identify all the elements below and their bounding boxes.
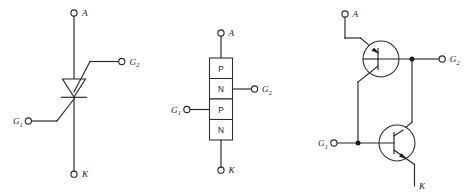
symbol-gate2-diagonal [74,62,90,93]
symbol-cathode-label: K [81,169,89,179]
symbol-anode-terminal[interactable] [71,10,77,16]
symbol-gate2-sublabel: 2 [136,61,140,68]
structure-anode-label: A [228,28,235,38]
equivalent-g1-sublabel: 1 [325,143,328,150]
equivalent-anode-label: A [352,9,359,19]
equivalent-cathode-label: K [418,181,426,191]
two-transistor-equivalent-diagram: A G 2 [318,9,461,190]
equivalent-g2-terminal[interactable] [439,56,445,62]
circuit-figure-canvas: A K G 2 G 1 [0,0,476,195]
symbol-gate1-diagonal [57,99,74,121]
symbol-gate1-terminal[interactable] [25,118,31,124]
equivalent-g1-junction-dot [356,141,361,146]
symbol-anode-label: A [81,8,88,18]
structure-layer-0-label: P [218,65,224,74]
structure-anode-terminal[interactable] [218,30,224,36]
structure-gate1-sublabel: 1 [178,109,181,116]
four-layer-structure-diagram: A P N P N K G 2 G 1 [171,28,273,175]
equivalent-g2-sublabel: 2 [457,59,461,66]
equivalent-g1-terminal[interactable] [331,140,337,146]
structure-layer-2-label: P [218,106,224,115]
equivalent-npn-emitter-exit [406,159,415,165]
symbol-cathode-terminal[interactable] [71,171,77,177]
equivalent-anode-terminal[interactable] [342,11,348,17]
structure-gate2-sublabel: 2 [269,89,273,96]
structure-layer-1-label: N [218,85,224,94]
structure-gate1-terminal[interactable] [184,106,190,112]
structure-gate2-terminal[interactable] [252,86,258,92]
structure-cathode-terminal[interactable] [218,167,224,173]
symbol-anode-triangle [63,79,86,97]
structure-cathode-label: K [228,165,236,175]
symbol-gate1-sublabel: 1 [20,121,23,128]
equivalent-pnp-collector-exit [358,75,368,83]
thyristor-symbol-diagram: A K G 2 G 1 [13,8,140,179]
figure-root: A K G 2 G 1 [0,0,476,195]
symbol-gate2-terminal[interactable] [119,58,125,64]
structure-layer-3-label: N [218,126,224,135]
